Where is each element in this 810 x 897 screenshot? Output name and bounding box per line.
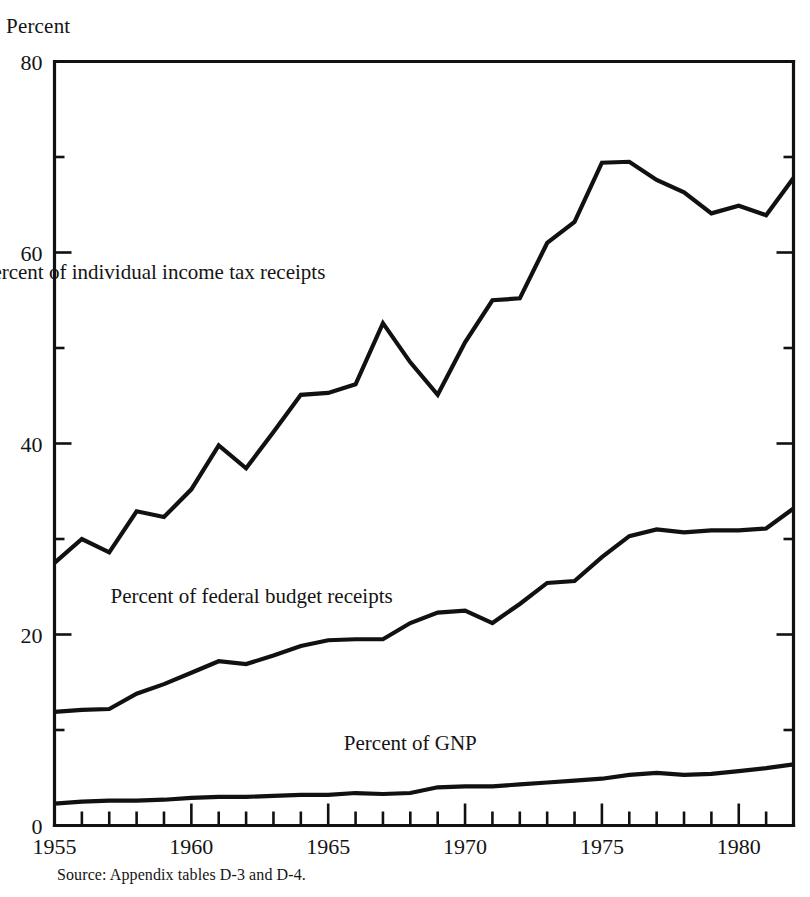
y-tick-label: 20 [21, 623, 43, 648]
y-axis-tick-labels: 020406080 [21, 50, 43, 839]
series-label-0: Percent of individual income tax receipt… [0, 260, 325, 284]
x-tick-label: 1975 [580, 834, 624, 859]
series-label-2: Percent of GNP [344, 731, 477, 755]
y-tick-label: 40 [21, 432, 43, 457]
chart-series-labels: Percent of individual income tax receipt… [0, 260, 477, 755]
chart-series-lines [55, 162, 794, 804]
chart-axes [55, 62, 794, 826]
x-tick-label: 1955 [33, 834, 77, 859]
series-line-2 [55, 764, 794, 803]
chart-figure: Percent 020406080 1955196019651970197519… [0, 0, 810, 897]
axis-left-and-top [55, 62, 794, 826]
x-tick-label: 1965 [306, 834, 350, 859]
x-tick-label: 1970 [443, 834, 487, 859]
x-tick-label: 1980 [717, 834, 761, 859]
x-axis-tick-labels: 195519601965197019751980 [33, 834, 761, 859]
x-tick-label: 1960 [169, 834, 213, 859]
y-tick-label: 80 [21, 50, 43, 75]
chart-ticks [55, 157, 794, 826]
series-line-1 [55, 508, 794, 711]
line-chart-plot: 020406080 195519601965197019751980 Perce… [0, 0, 810, 897]
source-note: Source: Appendix tables D-3 and D-4. [57, 866, 306, 884]
series-label-1: Percent of federal budget receipts [110, 584, 392, 608]
series-line-0 [55, 162, 794, 563]
